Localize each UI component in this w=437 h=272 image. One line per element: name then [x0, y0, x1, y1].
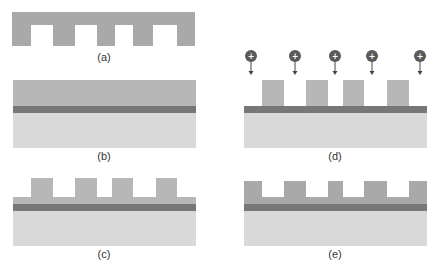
- ion-icon: +: [414, 50, 426, 75]
- panel-label-e: (e): [328, 248, 341, 260]
- panel-label-d: (d): [328, 150, 341, 162]
- svg-text:+: +: [332, 52, 339, 61]
- svg-text:+: +: [248, 52, 255, 61]
- transfer-layer: [13, 204, 196, 211]
- ion-icon: +: [366, 50, 378, 75]
- panel-e-etched: [244, 181, 427, 246]
- panel-label-c: (c): [98, 248, 111, 260]
- transfer-layer: [244, 106, 427, 113]
- svg-text:+: +: [292, 52, 299, 61]
- panel-c-imprinted: [13, 178, 196, 246]
- panel-label-b: (b): [97, 150, 110, 162]
- substrate: [244, 113, 427, 148]
- svg-text:+: +: [369, 52, 376, 61]
- substrate: [244, 211, 427, 246]
- process-diagram: (a) (b) (c) + +: [0, 0, 437, 272]
- panel-a-stamp: [12, 12, 195, 46]
- ion-icon: +: [329, 50, 341, 75]
- svg-text:+: +: [417, 52, 424, 61]
- substrate: [13, 113, 196, 148]
- panel-label-a: (a): [97, 51, 110, 63]
- ion-icon: +: [245, 50, 257, 75]
- panel-d-etching: + + + + +: [244, 50, 427, 148]
- transfer-layer: [244, 204, 427, 211]
- panel-b-stack: [13, 80, 196, 148]
- residual-layer: [13, 197, 196, 204]
- substrate: [13, 211, 196, 246]
- transfer-layer: [13, 106, 196, 113]
- ion-icon: +: [289, 50, 301, 75]
- resist-layer: [13, 80, 196, 106]
